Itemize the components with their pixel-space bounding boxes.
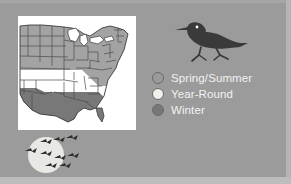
range-legend: Spring/Summer Year-Round Winter [152,70,282,118]
bottom-edge-strip [0,177,291,184]
migrating-flock-scene [20,130,100,178]
bird-front-leg [192,47,201,61]
legend-item-spring-summer[interactable]: Spring/Summer [152,70,282,86]
legend-label-spring-summer: Spring/Summer [171,70,252,86]
flying-bird-7 [67,153,79,158]
bird-range-map-figure: Spring/Summer Year-Round Winter [0,0,291,184]
bird-svg [168,18,252,64]
top-edge-strip [0,0,291,3]
map-svg [18,16,136,130]
migration-svg [20,130,100,178]
bird-front-foot [199,55,206,60]
flying-bird-3 [66,135,78,140]
united-states-range-map [18,16,136,130]
moon [28,137,64,173]
legend-label-winter: Winter [171,102,205,118]
legend-label-year-round: Year-Round [171,86,233,102]
legend-item-year-round[interactable]: Year-Round [152,86,282,102]
right-edge-strip [286,0,291,184]
legend-swatch-year-round [152,88,164,100]
legend-swatch-winter [152,104,164,116]
legend-swatch-spring-summer [152,72,164,84]
shorebird-silhouette [168,18,252,64]
bird-back-foot [214,55,220,60]
bird-beak [175,27,188,30]
legend-item-winter[interactable]: Winter [152,102,282,118]
bird-eye [196,26,199,29]
